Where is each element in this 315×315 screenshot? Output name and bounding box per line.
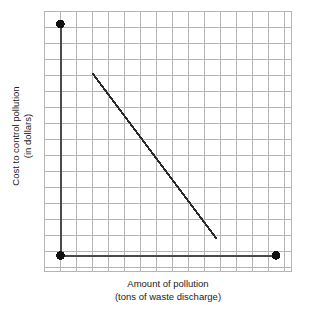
origin-dot — [56, 251, 65, 260]
y-axis-label-line1: Cost to control pollution — [10, 86, 22, 185]
x-axis-right-endpoint-dot — [272, 251, 281, 260]
x-axis-label: Amount of pollution (tons of waste disch… — [44, 278, 292, 303]
plot-area — [44, 11, 292, 272]
grid-vertical-lines — [45, 11, 292, 272]
x-axis-label-line1: Amount of pollution — [44, 278, 292, 291]
x-axis-label-line2: (tons of waste discharge) — [44, 291, 292, 304]
chart-figure: Cost to control pollution (in dollars) — [0, 0, 315, 315]
y-axis-top-endpoint-dot — [56, 20, 65, 29]
grid-horizontal-lines — [44, 12, 292, 272]
y-axis-label-line2: (in dollars) — [22, 86, 34, 185]
y-axis-label: Cost to control pollution (in dollars) — [0, 0, 44, 272]
